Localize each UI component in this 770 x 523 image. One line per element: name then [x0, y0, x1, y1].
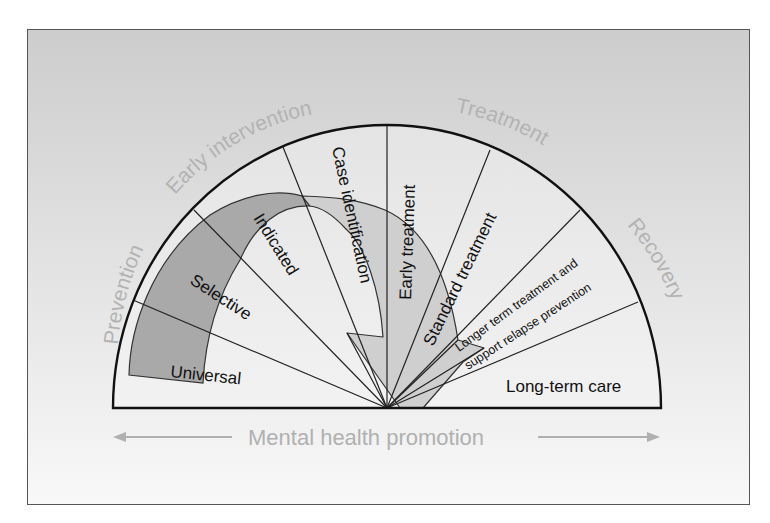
mental-health-promotion-label: Mental health promotion: [248, 425, 484, 450]
segment-label-long-term-care: Long-term care: [506, 377, 621, 396]
segment-label-early-treatment: Early treatment: [396, 184, 419, 300]
spectrum-diagram: Prevention Early intervention Treatment …: [0, 0, 770, 523]
